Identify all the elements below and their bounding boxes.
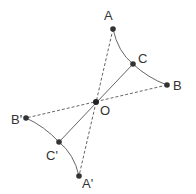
diagram-canvas: A C B O B' C' A' (0, 0, 196, 194)
label-c: C (138, 51, 147, 66)
point-a-prime (76, 173, 82, 179)
point-b-prime (23, 115, 29, 121)
label-o: O (100, 103, 110, 118)
point-c (130, 61, 136, 67)
symmetry-diagram: A C B O B' C' A' (0, 0, 196, 194)
label-b-prime: B' (11, 112, 22, 127)
point-o (93, 99, 99, 105)
point-b (164, 82, 170, 88)
label-c-prime: C' (46, 148, 58, 163)
label-b: B (173, 78, 182, 93)
label-a-prime: A' (82, 176, 93, 191)
point-c-prime (56, 139, 62, 145)
curve-b-prime-c-prime-a-prime (26, 118, 79, 176)
point-a (110, 26, 116, 32)
label-a: A (104, 8, 113, 23)
